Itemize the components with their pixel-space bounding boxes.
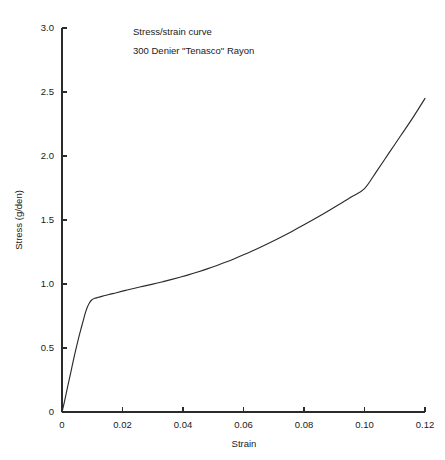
- stress-strain-chart: 00.51.01.52.02.53.0 00.020.040.060.080.1…: [0, 0, 445, 460]
- x-axis-tick-label: 0.10: [355, 419, 374, 430]
- y-axis-tick-label: 0.5: [41, 342, 54, 353]
- y-axis-tick-label: 0: [49, 406, 54, 417]
- y-axis-title: Stress (g/den): [13, 190, 24, 250]
- x-axis-tick-label: 0.02: [113, 419, 132, 430]
- y-axis-tick-label: 3.0: [41, 22, 54, 33]
- y-axis-tick-label: 2.5: [41, 86, 54, 97]
- x-axis-tick-label: 0.06: [234, 419, 253, 430]
- chart-figure: 00.51.01.52.02.53.0 00.020.040.060.080.1…: [0, 0, 445, 460]
- x-axis-tick-label: 0.08: [295, 419, 314, 430]
- x-axis-title: Strain: [232, 438, 257, 449]
- y-axis-tick-label: 1.0: [41, 278, 54, 289]
- chart-subtitle-annotation: 300 Denier "Tenasco" Rayon: [133, 45, 254, 56]
- y-axis-tick-label: 2.0: [41, 150, 54, 161]
- y-axis-tick-label: 1.5: [41, 214, 54, 225]
- x-axis-tick-label: 0.12: [416, 419, 435, 430]
- chart-title-annotation: Stress/strain curve: [133, 26, 212, 37]
- x-axis-tick-label: 0.04: [174, 419, 193, 430]
- x-axis-tick-label: 0: [59, 419, 64, 430]
